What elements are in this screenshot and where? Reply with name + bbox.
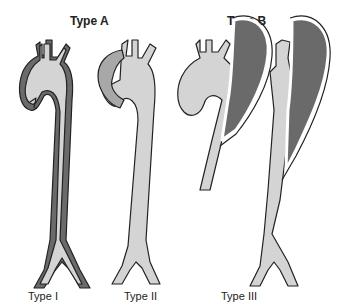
aorta-type-1 bbox=[19, 40, 90, 288]
aorta-type-2 bbox=[98, 40, 160, 284]
type-label-1: Type I bbox=[28, 290, 58, 302]
aorta-type-3a bbox=[178, 16, 272, 190]
aortic-dissection-diagram bbox=[0, 0, 339, 308]
type-label-3: Type III bbox=[221, 290, 257, 302]
type-label-2: Type II bbox=[124, 290, 157, 302]
